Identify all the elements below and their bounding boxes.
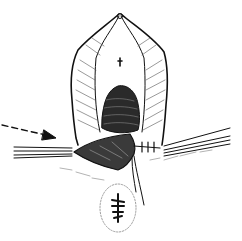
lower-orifice <box>112 194 124 222</box>
surgical-illustration <box>0 0 242 241</box>
arrow-head <box>42 130 56 140</box>
cavity <box>102 86 140 133</box>
sutures <box>134 142 160 152</box>
right-retractor <box>164 128 230 156</box>
incision-wound <box>74 134 135 170</box>
top-knot <box>118 14 123 19</box>
center-mark <box>118 58 122 66</box>
hatching-left <box>76 38 104 130</box>
thread-1 <box>134 156 144 205</box>
left-retractor <box>14 147 72 158</box>
illustration-svg <box>0 0 242 241</box>
